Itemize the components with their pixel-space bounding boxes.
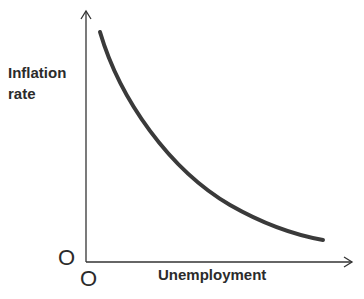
origin-label-y: O	[58, 245, 75, 271]
y-axis-label-line1: Inflation	[8, 62, 66, 83]
x-axis-label: Unemployment	[158, 266, 266, 283]
y-axis-label: Inflation rate	[8, 62, 66, 104]
y-axis	[81, 11, 91, 262]
diagram-canvas	[0, 0, 364, 299]
y-axis-label-line2: rate	[8, 83, 66, 104]
origin-label-x: O	[80, 266, 97, 292]
phillips-curve	[100, 32, 323, 240]
